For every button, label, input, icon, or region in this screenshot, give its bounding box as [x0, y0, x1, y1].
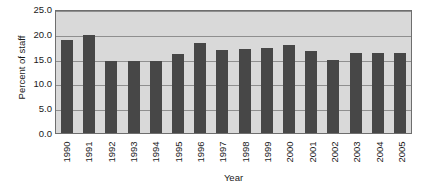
y-axis-tick-label: 10.0	[18, 79, 52, 89]
x-axis-tick-label: 1999	[261, 141, 272, 162]
x-axis-tick-label: 1992	[105, 141, 116, 162]
x-axis-tick: 1997	[211, 136, 233, 172]
x-axis-tick-label: 1991	[83, 141, 94, 162]
bar	[283, 45, 295, 133]
bar	[372, 53, 384, 133]
x-axis-tick: 2003	[345, 136, 367, 172]
bar	[394, 53, 406, 133]
x-axis-tick: 1996	[189, 136, 211, 172]
x-axis-tick: 1994	[144, 136, 166, 172]
x-axis-tick: 2004	[368, 136, 390, 172]
x-axis-tick-label: 1995	[172, 141, 183, 162]
bar	[261, 48, 273, 133]
x-axis-tick-label: 2000	[284, 141, 295, 162]
bar	[239, 49, 251, 133]
x-axis-tick: 1998	[234, 136, 256, 172]
x-axis-tick: 1995	[167, 136, 189, 172]
x-axis-tick-label: 2005	[395, 141, 406, 162]
plot-area	[55, 10, 412, 134]
y-axis-tick-label: 15.0	[18, 55, 52, 65]
x-axis-tick-label: 1997	[217, 141, 228, 162]
x-axis-tick: 1990	[55, 136, 77, 172]
bar	[83, 35, 95, 133]
y-axis-tick-label: 25.0	[18, 5, 52, 15]
bar	[172, 54, 184, 133]
bar-chart: Percent of staff 0.05.010.015.020.025.0 …	[0, 0, 425, 191]
x-axis-tick-label: 1996	[195, 141, 206, 162]
x-axis-tick-label: 1994	[150, 141, 161, 162]
x-axis-tick-label: 1990	[61, 141, 72, 162]
x-axis-tick: 2002	[323, 136, 345, 172]
x-axis-tick-label: 2004	[373, 141, 384, 162]
x-axis-tick: 2005	[390, 136, 412, 172]
x-axis-tick: 1991	[77, 136, 99, 172]
plot-inner	[56, 11, 411, 133]
x-axis-tick: 2001	[301, 136, 323, 172]
bar	[150, 61, 162, 133]
bar	[61, 40, 73, 133]
bar	[216, 50, 228, 133]
bar	[194, 43, 206, 133]
bars-container	[56, 11, 411, 133]
bar	[128, 61, 140, 133]
x-axis-tick: 1999	[256, 136, 278, 172]
x-axis-tick: 1992	[100, 136, 122, 172]
bar	[350, 53, 362, 133]
x-axis-tick-label: 2002	[328, 141, 339, 162]
bar	[305, 51, 317, 133]
y-axis-tick-label: 0.0	[18, 129, 52, 139]
x-axis-tick-labels: 1990199119921993199419951996199719981999…	[55, 136, 412, 172]
x-axis-tick-label: 1993	[128, 141, 139, 162]
bar	[327, 60, 339, 133]
x-axis-tick-label: 2001	[306, 141, 317, 162]
x-axis-tick-label: 2003	[351, 141, 362, 162]
bar	[105, 61, 117, 133]
x-axis-tick: 1993	[122, 136, 144, 172]
x-axis-tick: 2000	[278, 136, 300, 172]
x-axis-tick-label: 1998	[239, 141, 250, 162]
y-axis-tick-labels: 0.05.010.015.020.025.0	[14, 0, 52, 191]
y-axis-tick-label: 5.0	[18, 104, 52, 114]
x-axis-title: Year	[55, 172, 412, 183]
y-axis-tick-label: 20.0	[18, 30, 52, 40]
